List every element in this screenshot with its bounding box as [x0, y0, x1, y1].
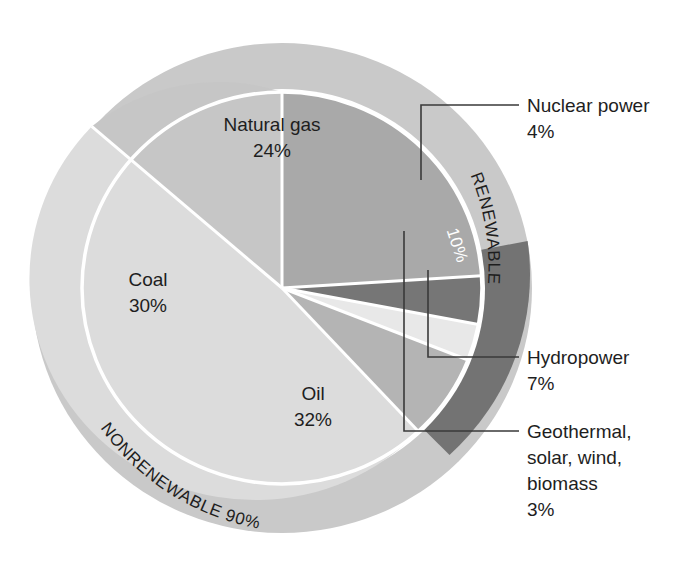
callout-geothermal-value: 3% [527, 499, 555, 520]
label-oil-value: 32% [294, 409, 332, 430]
label-natural-gas-name: Natural gas [223, 114, 320, 135]
callout-nuclear-value: 4% [527, 121, 555, 142]
callout-geothermal-line3: biomass [527, 473, 598, 494]
callout-geothermal-line1: Geothermal, [527, 421, 632, 442]
pie-chart-svg: Natural gas 24% Coal 30% Oil 32% RENEWAB… [0, 0, 695, 562]
label-oil-name: Oil [301, 383, 324, 404]
callout-hydropower-value: 7% [527, 373, 555, 394]
label-natural-gas-value: 24% [253, 140, 291, 161]
callout-nuclear-name: Nuclear power [527, 95, 650, 116]
callout-labels: Nuclear power 4% Hydropower 7% Geotherma… [527, 95, 650, 520]
energy-sources-pie-chart: Natural gas 24% Coal 30% Oil 32% RENEWAB… [0, 0, 695, 562]
callout-hydropower-name: Hydropower [527, 347, 630, 368]
callout-geothermal-line2: solar, wind, [527, 447, 622, 468]
label-coal-name: Coal [128, 269, 167, 290]
label-coal-value: 30% [129, 295, 167, 316]
